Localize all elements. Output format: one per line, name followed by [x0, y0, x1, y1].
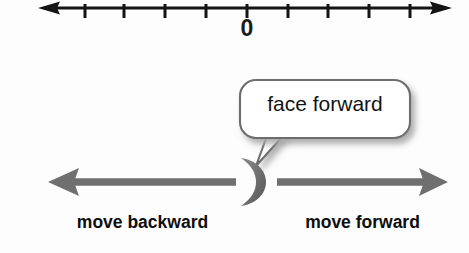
forward-arrow [277, 168, 448, 196]
backward-arrow [48, 168, 236, 196]
move-backward-label: move backward [40, 213, 245, 232]
crescent-figure-icon [241, 158, 266, 206]
speech-bubble-text: face forward [244, 93, 406, 114]
move-forward-label: move forward [270, 213, 455, 232]
diagram-canvas: 0 [0, 0, 469, 253]
